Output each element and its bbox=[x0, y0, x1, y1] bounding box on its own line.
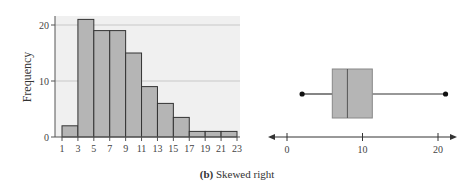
min-point bbox=[300, 91, 305, 96]
x-tick-label: 17 bbox=[184, 143, 194, 154]
x-tick-label: 9 bbox=[123, 143, 128, 154]
x-tick-label: 3 bbox=[75, 143, 80, 154]
x-tick-label: 5 bbox=[91, 143, 96, 154]
x-tick-label: 19 bbox=[200, 143, 210, 154]
x-tick-label: 23 bbox=[232, 143, 242, 154]
histogram-bar bbox=[126, 53, 142, 137]
y-tick-label: 10 bbox=[39, 76, 49, 87]
y-tick-label: 20 bbox=[39, 20, 49, 31]
number-line-label: 20 bbox=[433, 144, 443, 155]
histogram-bar bbox=[189, 131, 205, 137]
caption-text: Skewed right bbox=[216, 168, 274, 180]
histogram-bar bbox=[78, 19, 94, 137]
max-point bbox=[443, 91, 448, 96]
y-tick-label: 0 bbox=[44, 132, 49, 143]
number-line-label: 0 bbox=[285, 144, 290, 155]
x-tick-label: 1 bbox=[60, 143, 65, 154]
chart-canvas: 010201357911131517192123Frequency01020 bbox=[0, 0, 474, 192]
x-tick-label: 21 bbox=[216, 143, 226, 154]
histogram-bar bbox=[173, 117, 189, 137]
caption-label: (b) bbox=[200, 168, 213, 180]
histogram-bar bbox=[221, 131, 237, 137]
histogram-bar bbox=[94, 31, 110, 137]
figure-caption: (b) Skewed right bbox=[0, 168, 474, 180]
histogram-bar bbox=[62, 126, 78, 137]
right-arrow-icon bbox=[450, 134, 457, 140]
x-tick-label: 11 bbox=[137, 143, 147, 154]
x-tick-label: 13 bbox=[152, 143, 162, 154]
left-arrow-icon bbox=[268, 134, 275, 140]
histogram-bar bbox=[157, 103, 173, 137]
box bbox=[332, 69, 372, 118]
x-tick-label: 15 bbox=[168, 143, 178, 154]
histogram-bar bbox=[205, 131, 221, 137]
histogram-bar bbox=[110, 31, 126, 137]
x-tick-label: 7 bbox=[107, 143, 112, 154]
y-axis-title: Frequency bbox=[20, 52, 34, 103]
histogram-bar bbox=[142, 87, 158, 137]
number-line-label: 10 bbox=[358, 144, 368, 155]
